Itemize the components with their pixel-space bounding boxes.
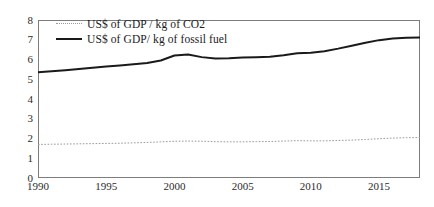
chart-legend: US$ of GDP / kg of CO2 US$ of GDP/ kg of… [56, 16, 356, 46]
y-axis-tick-label: 3 [5, 113, 33, 124]
x-axis-tick-label: 1990 [27, 181, 49, 192]
x-axis-tick-label: 2010 [300, 181, 322, 192]
y-axis-tick-label: 7 [5, 34, 33, 45]
x-axis-tick-label: 2005 [232, 181, 254, 192]
y-axis-tick-label: 4 [5, 94, 33, 105]
legend-item-co2: US$ of GDP / kg of CO2 [56, 16, 356, 31]
y-axis-tick-label: 5 [5, 74, 33, 85]
y-axis-tick-label: 1 [5, 153, 33, 164]
legend-label-co2: US$ of GDP / kg of CO2 [87, 18, 205, 30]
y-axis-tick-label: 2 [5, 133, 33, 144]
x-axis-tick-label: 2000 [163, 181, 185, 192]
y-axis: 876543210 [0, 0, 33, 207]
x-axis: 199019952000200520102015 [0, 181, 434, 201]
solid-line-marker-icon [56, 34, 82, 44]
legend-item-fossil-fuel: US$ of GDP/ kg of fossil fuel [56, 31, 356, 46]
y-axis-tick-label: 8 [5, 15, 33, 26]
x-axis-tick-label: 1995 [95, 181, 117, 192]
series-line-co2 [38, 138, 420, 145]
legend-label-fossil-fuel: US$ of GDP/ kg of fossil fuel [87, 33, 227, 45]
line-chart: 876543210 199019952000200520102015 US$ o… [0, 0, 434, 207]
x-axis-tick-label: 2015 [368, 181, 390, 192]
y-axis-tick-label: 6 [5, 54, 33, 65]
dotted-line-marker-icon [56, 19, 82, 29]
